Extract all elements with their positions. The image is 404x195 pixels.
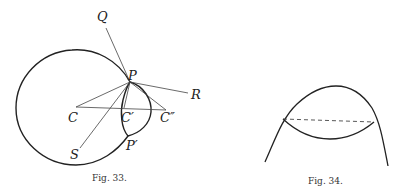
label-R: R [190, 87, 201, 102]
label-S: S [70, 147, 79, 162]
figure-canvas: Q P R C C′ C″ S P′ Fig. 33. Fig. 34. [0, 0, 404, 195]
dashed-chord [283, 119, 374, 122]
fig-34: Fig. 34. [265, 86, 388, 186]
caption-fig-33: Fig. 33. [92, 173, 127, 183]
label-C-double-prime: C″ [160, 110, 175, 125]
label-P: P [127, 68, 137, 83]
label-C: C [68, 110, 78, 125]
label-P-prime: P′ [125, 138, 138, 153]
line-PR [130, 82, 188, 93]
label-C-prime: C′ [121, 110, 134, 125]
label-Q: Q [97, 9, 108, 24]
fig-33: Q P R C C′ C″ S P′ Fig. 33. [16, 9, 201, 183]
caption-fig-34: Fig. 34. [308, 176, 343, 186]
line-QS [106, 28, 130, 82]
line-PC2 [130, 82, 166, 110]
